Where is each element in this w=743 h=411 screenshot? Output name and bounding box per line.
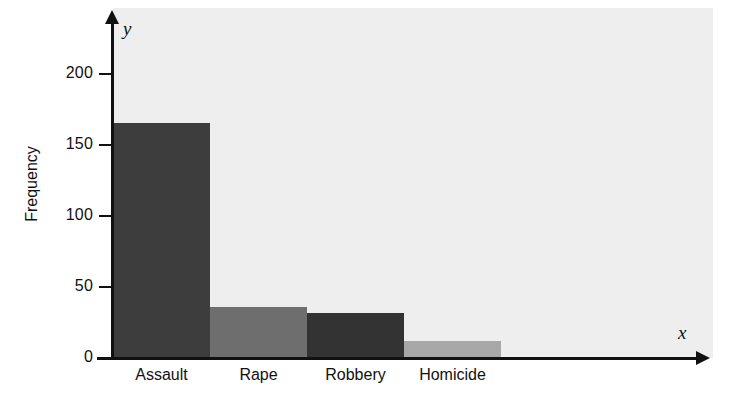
bar-rape [210,307,307,358]
x-axis-letter: x [678,322,686,344]
y-axis-tick-label-150: 150 [43,135,93,153]
y-axis-tick-label-200: 200 [43,64,93,82]
bar-assault [113,123,210,358]
y-axis-tick-label-0: 0 [43,348,93,366]
y-axis-tick-label-text: 50 [47,277,93,295]
y-axis-title: Frequency [23,114,41,254]
x-axis-line [97,357,698,360]
y-axis-arrow-icon [105,10,119,24]
y-axis-tick-200 [99,73,113,75]
x-axis-label-homicide: Homicide [394,366,511,384]
x-axis-arrow-icon [696,351,710,365]
y-axis-tick-50 [99,286,113,288]
y-axis-tick-150 [99,144,113,146]
y-axis-tick-label-text: 200 [47,64,93,82]
y-axis-tick-100 [99,215,113,217]
bar-chart-figure: y x 050100150200 Frequency AssaultRapeRo… [0,0,743,411]
bar-robbery [307,313,404,358]
y-axis-tick-0 [99,357,113,359]
y-axis-tick-label-50: 50 [43,277,93,295]
y-axis-tick-label-text: 0 [47,348,93,366]
y-axis-tick-label-text: 100 [47,206,93,224]
y-axis-letter: y [123,18,131,40]
y-axis-tick-label-text: 150 [47,135,93,153]
bar-homicide [404,341,501,358]
y-axis-tick-label-100: 100 [43,206,93,224]
